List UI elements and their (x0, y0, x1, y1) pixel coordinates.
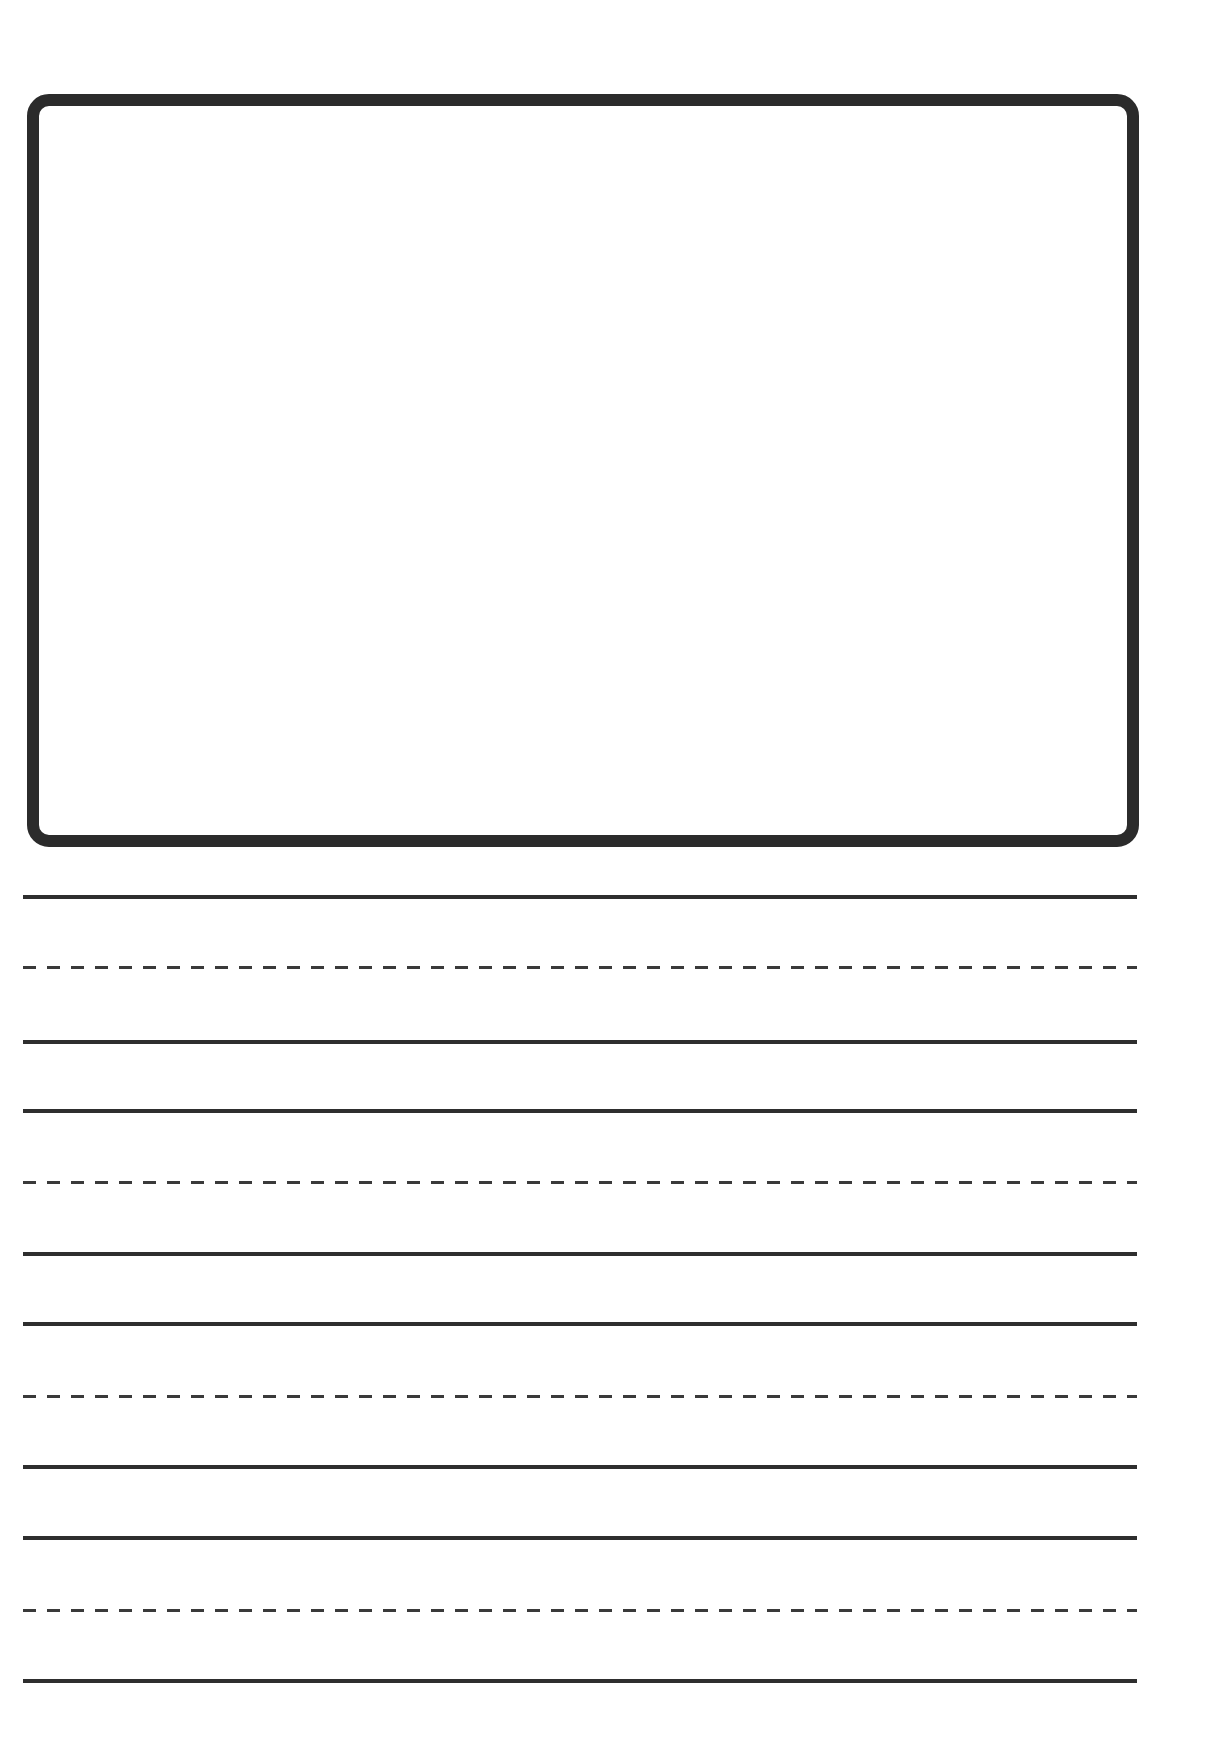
solid-writing-line (23, 1679, 1137, 1683)
drawing-box (27, 94, 1139, 847)
dashed-midline (23, 966, 1137, 969)
dashed-midline (23, 1609, 1137, 1612)
solid-writing-line (23, 1252, 1137, 1256)
dashed-midline (23, 1395, 1137, 1398)
solid-writing-line (23, 1322, 1137, 1326)
solid-writing-line (23, 1536, 1137, 1540)
solid-writing-line (23, 895, 1137, 899)
solid-writing-line (23, 1465, 1137, 1469)
solid-writing-line (23, 1040, 1137, 1044)
solid-writing-line (23, 1109, 1137, 1113)
dashed-midline (23, 1181, 1137, 1184)
